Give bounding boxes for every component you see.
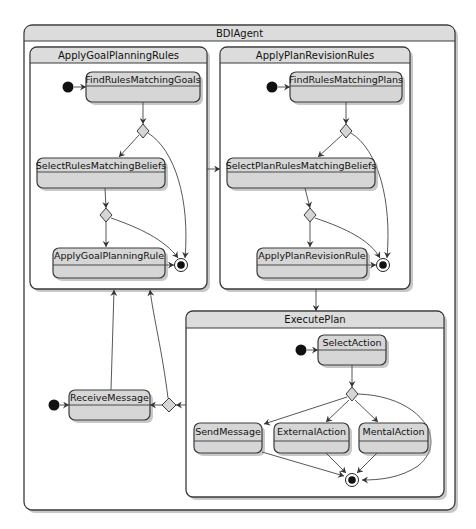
composite-title: BDIAgent — [216, 28, 263, 39]
initial-state-icon — [267, 82, 278, 93]
state-label: SelectAction — [322, 337, 381, 348]
state-select-plan-rules-matching-beliefs[interactable]: SelectPlanRulesMatchingBeliefs — [226, 158, 378, 191]
state-receive-message[interactable]: ReceiveMessage — [69, 390, 153, 423]
state-select-rules-matching-beliefs[interactable]: SelectRulesMatchingBeliefs — [36, 158, 168, 191]
initial-state-icon — [63, 82, 74, 93]
final-state-icon — [346, 474, 359, 487]
initial-state-icon — [296, 345, 307, 356]
state-select-action[interactable]: SelectAction — [318, 335, 389, 368]
state-label: ApplyPlanRevisionRule — [258, 250, 366, 261]
state-apply-plan-revision-rule[interactable]: ApplyPlanRevisionRule — [257, 248, 370, 281]
state-send-message[interactable]: SendMessage — [194, 423, 265, 456]
state-label: FindRulesMatchingPlans — [289, 74, 403, 85]
state-label: ExternalAction — [277, 426, 346, 437]
state-label: FindRulesMatchingGoals — [85, 74, 200, 85]
composite-title: ApplyGoalPlanningRules — [58, 50, 179, 61]
final-state-icon — [175, 259, 188, 272]
composite-title: ExecutePlan — [284, 314, 345, 325]
state-label: ApplyGoalPlanningRule — [54, 250, 164, 261]
state-mental-action[interactable]: MentalAction — [359, 423, 431, 456]
final-state-icon — [377, 259, 390, 272]
state-label: ReceiveMessage — [70, 392, 149, 403]
state-find-rules-matching-plans[interactable]: FindRulesMatchingPlans — [289, 72, 405, 105]
state-apply-goal-planning-rule[interactable]: ApplyGoalPlanningRule — [53, 248, 168, 281]
state-external-action[interactable]: ExternalAction — [274, 423, 352, 456]
state-label: SelectRulesMatchingBeliefs — [36, 160, 166, 171]
state-label: MentalAction — [362, 426, 424, 437]
composite-title: ApplyPlanRevisionRules — [256, 50, 374, 61]
state-machine-diagram: BDIAgent ApplyGoalPlanningRules FindRule… — [0, 0, 476, 529]
initial-state-icon — [49, 400, 60, 411]
state-label: SelectPlanRulesMatchingBeliefs — [226, 160, 377, 171]
state-label: SendMessage — [195, 426, 261, 437]
state-find-rules-matching-goals[interactable]: FindRulesMatchingGoals — [85, 72, 203, 105]
